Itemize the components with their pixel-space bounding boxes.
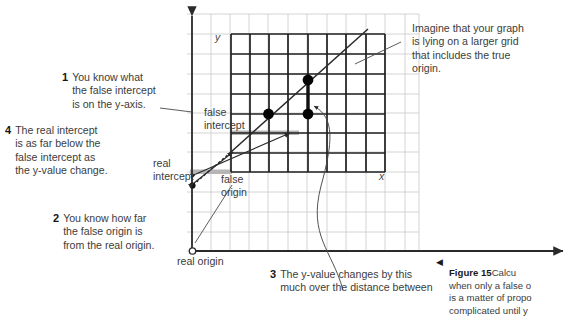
callout-2: 2 You know how far the false origin is f… [53,212,154,252]
data-point-1 [263,109,274,120]
real-intercept-label: real intercept [153,157,194,182]
callout-1-number: 1 [62,71,68,84]
callout-4: 4 The real intercept is as far below the… [5,124,108,178]
x-axis-label: x [379,170,384,182]
callout-1-text: You know what the false intercept is on … [72,71,156,111]
figure-caption-head: Figure 15 [449,267,492,278]
data-point-3 [303,75,314,86]
callout-3-number: 3 [270,268,276,281]
figure-caption: Figure 15Calcu when only a false o is a … [449,255,568,317]
callout-4-number: 4 [5,124,11,137]
callout-2-text: You know how far the false origin is fro… [63,212,154,252]
false-origin-label: false origin [221,173,247,198]
leader-callout-1 [160,108,192,112]
data-point-2 [303,109,314,120]
y-axis-label: y [215,31,220,43]
callout-2-number: 2 [53,212,59,225]
real-origin-label: real origin [177,255,224,268]
real-intercept-point [189,182,195,188]
caption-arrow-icon: ◀ [436,257,443,267]
callout-4-text: The real intercept is as far below the f… [15,124,107,178]
note-larger-grid: Imagine that your graph is lying on a la… [412,22,524,76]
callout-1: 1 You know what the false intercept is o… [62,71,156,111]
false-intercept-label: false intercept [204,106,245,131]
leader-note-grid [355,42,401,64]
callout-3-text: The y-value changes by this much over th… [280,268,433,295]
real-origin-marker [189,248,195,254]
callout-3: 3 The y-value changes by this much over … [270,268,433,295]
